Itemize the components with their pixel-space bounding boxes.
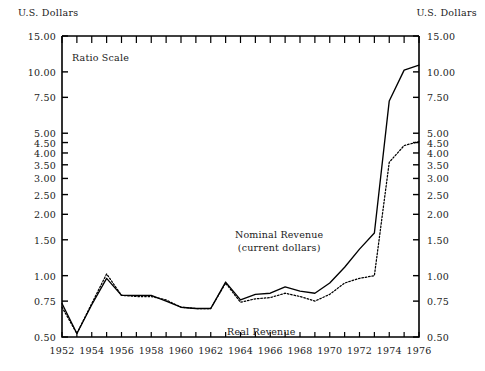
y-tick-label-right: 0.75 <box>427 296 449 307</box>
y-tick-label-left: 4.00 <box>34 147 56 158</box>
x-tick-label: 1968 <box>288 345 313 356</box>
y-tick-label-right: 0.50 <box>427 332 449 343</box>
y-tick-label-right: 10.00 <box>427 66 455 77</box>
y-tick-label-left: 15.00 <box>28 31 56 42</box>
x-tick-label: 1952 <box>50 345 75 356</box>
y-tick-label-right: 15.00 <box>427 31 455 42</box>
x-tick-label: 1960 <box>169 345 194 356</box>
chart-figure: U.S. Dollars U.S. Dollars 0.500.500.750.… <box>0 0 485 371</box>
y-tick-label-left: 0.75 <box>34 296 56 307</box>
x-tick-label: 1974 <box>377 345 402 356</box>
y-tick-label-left: 7.50 <box>34 92 56 103</box>
series-line-1 <box>62 65 419 333</box>
x-tick-label: 1970 <box>317 345 342 356</box>
y-tick-label-right: 7.50 <box>427 92 449 103</box>
x-tick-label: 1958 <box>139 345 164 356</box>
y-tick-label-right: 2.50 <box>427 189 449 200</box>
y-tick-label-right: 1.00 <box>427 270 449 281</box>
x-tick-label: 1956 <box>109 345 134 356</box>
y-tick-label-left: 2.00 <box>34 209 56 220</box>
x-tick-label: 1976 <box>407 345 432 356</box>
y-tick-label-left: 1.50 <box>34 234 56 245</box>
x-tick-label: 1954 <box>79 345 104 356</box>
y-tick-label-left: 0.50 <box>34 332 56 343</box>
ratio-scale-annotation: Ratio Scale <box>72 52 129 63</box>
y-tick-label-left: 10.00 <box>28 66 56 77</box>
x-tick-label: 1972 <box>347 345 372 356</box>
y-tick-label-left: 3.50 <box>34 159 56 170</box>
left-axis-unit-label: U.S. Dollars <box>18 7 78 18</box>
x-tick-label: 1964 <box>228 345 253 356</box>
nominal-revenue-sublabel: (current dollars) <box>235 241 324 254</box>
y-tick-label-right: 3.50 <box>427 159 449 170</box>
x-tick-label: 1962 <box>198 345 223 356</box>
y-tick-label-right: 5.00 <box>427 128 449 139</box>
nominal-revenue-annotation: Nominal Revenue (current dollars) <box>235 228 324 254</box>
y-tick-label-left: 3.00 <box>34 173 56 184</box>
right-axis-unit-label: U.S. Dollars <box>417 7 477 18</box>
y-tick-label-right: 3.00 <box>427 173 449 184</box>
nominal-revenue-label: Nominal Revenue <box>235 229 324 240</box>
y-tick-label-right: 4.00 <box>427 147 449 158</box>
x-tick-label: 1966 <box>258 345 283 356</box>
y-tick-label-right: 2.00 <box>427 209 449 220</box>
y-tick-label-left: 5.00 <box>34 128 56 139</box>
real-revenue-annotation: Real Revenue <box>227 326 296 337</box>
y-tick-label-left: 2.50 <box>34 189 56 200</box>
y-tick-label-right: 1.50 <box>427 234 449 245</box>
y-tick-label-left: 1.00 <box>34 270 56 281</box>
